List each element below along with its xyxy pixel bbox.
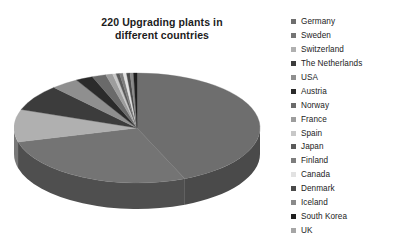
legend-item-label: South Korea [301,212,347,221]
legend-item-label: Spain [301,129,322,138]
legend-item-sweden[interactable]: Sweden [291,29,395,43]
legend-item-iceland[interactable]: Iceland [291,196,395,210]
legend-item-label: Japan [301,142,324,151]
legend-item-label: Finland [301,156,328,165]
legend-swatch-icon [291,19,296,24]
legend-item-denmark[interactable]: Denmark [291,182,395,196]
legend-swatch-icon [291,144,296,149]
legend-item-south-korea[interactable]: South Korea [291,209,395,223]
legend-item-label: Denmark [301,184,335,193]
chart-page: 220 Upgrading plants in different countr… [0,0,396,240]
legend-swatch-icon [291,117,296,122]
legend-item-label: France [301,115,327,124]
legend-swatch-icon [291,214,296,219]
title-line-2: different countries [48,29,276,42]
legend-item-label: USA [301,73,318,82]
legend-item-finland[interactable]: Finland [291,154,395,168]
legend-swatch-icon [291,47,296,52]
legend-item-label: Austria [301,87,327,96]
legend: GermanySwedenSwitzerlandThe NetherlandsU… [291,15,395,237]
legend-item-switzerland[interactable]: Switzerland [291,43,395,57]
legend-item-usa[interactable]: USA [291,71,395,85]
legend-swatch-icon [291,89,296,94]
title-line-1: 220 Upgrading plants in [48,16,276,29]
pie-top-faces [14,73,260,183]
legend-swatch-icon [291,33,296,38]
legend-item-the-netherlands[interactable]: The Netherlands [291,57,395,71]
legend-item-austria[interactable]: Austria [291,84,395,98]
legend-swatch-icon [291,103,296,108]
legend-item-uk[interactable]: UK [291,223,395,237]
legend-swatch-icon [291,61,296,66]
legend-item-france[interactable]: France [291,112,395,126]
pie-chart-svg [14,50,280,220]
legend-item-label: Switzerland [301,45,344,54]
legend-item-label: Iceland [301,198,328,207]
legend-item-norway[interactable]: Norway [291,98,395,112]
legend-swatch-icon [291,186,296,191]
legend-swatch-icon [291,172,296,177]
legend-item-label: Sweden [301,31,331,40]
legend-item-label: Norway [301,101,329,110]
legend-swatch-icon [291,131,296,136]
legend-swatch-icon [291,228,296,233]
legend-item-japan[interactable]: Japan [291,140,395,154]
legend-swatch-icon [291,200,296,205]
legend-item-label: Canada [301,170,330,179]
legend-swatch-icon [291,158,296,163]
legend-item-spain[interactable]: Spain [291,126,395,140]
legend-item-canada[interactable]: Canada [291,168,395,182]
page-title: 220 Upgrading plants in different countr… [48,16,276,42]
legend-swatch-icon [291,75,296,80]
legend-item-label: UK [301,226,312,235]
legend-item-germany[interactable]: Germany [291,15,395,29]
legend-item-label: The Netherlands [301,59,362,68]
legend-item-label: Germany [301,17,335,26]
pie-chart [14,50,280,220]
